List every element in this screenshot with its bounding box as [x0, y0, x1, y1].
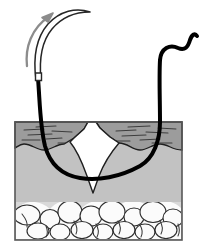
suture-illustration-figure: Cross-sectional medical illustration of …: [0, 0, 202, 250]
illustration-canvas: [0, 0, 202, 250]
subcutaneous-fat-layer: [14, 201, 183, 240]
needle-swage: [36, 73, 42, 81]
suture-thread-tail: [160, 34, 197, 122]
